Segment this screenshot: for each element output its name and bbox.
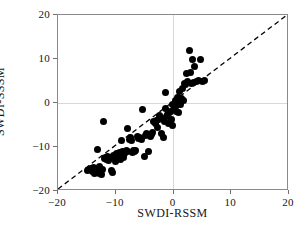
data-point bbox=[189, 56, 196, 63]
plot-area bbox=[57, 14, 288, 190]
y-axis-tick bbox=[53, 58, 57, 59]
data-point bbox=[99, 166, 106, 173]
data-point bbox=[177, 101, 184, 108]
x-axis-tick bbox=[57, 190, 58, 194]
x-axis-tick bbox=[115, 190, 116, 194]
data-point bbox=[201, 77, 208, 84]
data-point bbox=[160, 134, 167, 141]
y-axis-tick-label: −10 bbox=[10, 140, 50, 152]
x-axis-label: SWDI-RSSM bbox=[57, 206, 288, 221]
data-point bbox=[186, 47, 193, 54]
scatter-plot-figure: −20−1001020−20−1001020 SWDI-RSSM SWDI-SS… bbox=[0, 0, 308, 229]
y-axis-tick-label: 10 bbox=[10, 52, 50, 64]
y-axis-tick bbox=[53, 146, 57, 147]
x-axis-tick bbox=[230, 190, 231, 194]
y-axis-tick-label: −20 bbox=[10, 184, 50, 196]
y-axis-label: SWDI-SSSM bbox=[0, 42, 8, 162]
data-point bbox=[175, 109, 182, 116]
data-point bbox=[162, 89, 169, 96]
data-point bbox=[145, 148, 152, 155]
y-axis-tick bbox=[53, 14, 57, 15]
y-axis-tick-label: 20 bbox=[10, 8, 50, 20]
y-axis-tick bbox=[53, 102, 57, 103]
y-axis-tick-label: 0 bbox=[10, 96, 50, 108]
x-axis-tick bbox=[173, 190, 174, 194]
data-point bbox=[197, 56, 204, 63]
data-point bbox=[109, 169, 116, 176]
y-axis-tick bbox=[53, 190, 57, 191]
x-axis-tick bbox=[288, 190, 289, 194]
data-point bbox=[94, 146, 101, 153]
